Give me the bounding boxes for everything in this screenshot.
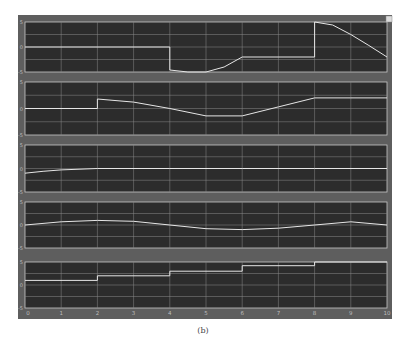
- x-tick-label: 8: [313, 310, 317, 316]
- y-tick-label: 0: [20, 166, 23, 172]
- x-tick-label: 6: [240, 310, 244, 316]
- x-tick-label: 9: [349, 310, 353, 316]
- y-tick-label: 5: [20, 199, 23, 205]
- y-tick-label: 5: [20, 142, 23, 148]
- figure: 50-550-550-550-550-5012345678910: [0, 0, 406, 346]
- x-tick-label: 3: [132, 310, 136, 316]
- x-tick-label: 2: [96, 310, 100, 316]
- x-tick-label: 1: [59, 310, 63, 316]
- y-tick-label: -5: [18, 69, 23, 75]
- y-tick-label: 5: [20, 79, 23, 85]
- y-tick-label: 5: [20, 259, 23, 265]
- x-tick-label: 7: [277, 310, 281, 316]
- y-tick-label: 0: [20, 44, 23, 50]
- y-tick-label: 5: [20, 19, 23, 25]
- y-tick-label: -5: [18, 189, 23, 195]
- y-tick-label: -5: [18, 305, 23, 311]
- corner-button: [386, 16, 392, 22]
- figure-caption: (b): [0, 326, 406, 335]
- y-tick-label: 0: [20, 282, 23, 288]
- y-tick-label: -5: [18, 132, 23, 138]
- y-tick-label: -5: [18, 245, 23, 251]
- x-tick-label: 5: [204, 310, 208, 316]
- y-tick-label: 0: [20, 222, 23, 228]
- x-tick-label: 4: [168, 310, 172, 316]
- y-tick-label: 0: [20, 106, 23, 112]
- x-tick-label: 0: [26, 310, 30, 316]
- x-tick-label: 10: [384, 310, 391, 316]
